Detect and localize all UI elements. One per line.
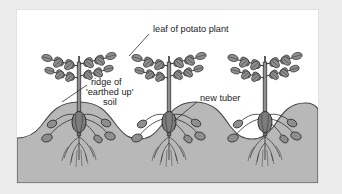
potato-cultivation-diagram: leaf of potato plant ridge of 'earthed u… [17, 10, 318, 183]
label-ridge-line3: soil [103, 97, 117, 107]
figure-root: leaf of potato plant ridge of 'earthed u… [0, 0, 342, 194]
label-ridge-line1: ridge of [91, 77, 122, 87]
label-leaf-of-potato-plant: leaf of potato plant [153, 24, 229, 34]
label-new-tuber: new tuber [200, 93, 240, 103]
diagram-panel: leaf of potato plant ridge of 'earthed u… [17, 10, 318, 183]
label-ridge-line2: 'earthed up' [86, 87, 134, 97]
